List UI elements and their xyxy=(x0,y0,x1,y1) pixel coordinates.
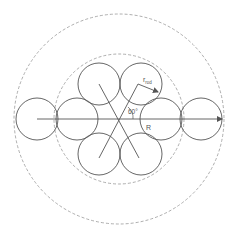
rod-circle-8 xyxy=(120,133,162,175)
rod-radius-label: rrod xyxy=(143,76,152,85)
rod-packing-diagram: rrod 60° R xyxy=(0,0,238,238)
rod-radius-arrow xyxy=(138,84,158,92)
rod-circle-7 xyxy=(78,133,120,175)
rod-circle-6 xyxy=(120,63,162,105)
R-label: R xyxy=(146,124,151,131)
angle-label: 60° xyxy=(128,108,138,115)
